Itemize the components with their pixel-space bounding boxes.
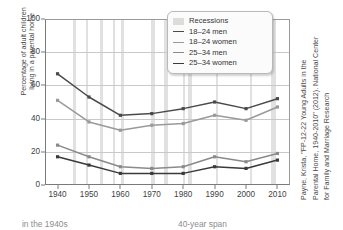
y-tick-label: 60: [31, 81, 40, 89]
x-tick-label: 2010: [268, 191, 286, 199]
legend-item[interactable]: 18–24 men: [173, 27, 267, 38]
legend-swatch-box-icon: [173, 18, 184, 25]
legend-item[interactable]: 25–34 women: [173, 58, 267, 69]
x-tick-mark: [151, 185, 152, 189]
data-point-marker: [213, 100, 216, 103]
data-point-marker: [150, 112, 153, 115]
legend-item-label: 18–24 men: [189, 28, 227, 36]
x-tick-label: 1990: [206, 191, 224, 199]
legend-swatch-line-icon: [173, 42, 184, 43]
data-point-marker: [213, 165, 216, 168]
data-point-marker: [213, 155, 216, 158]
data-point-marker: [276, 97, 279, 100]
data-point-marker: [244, 167, 247, 170]
data-point-marker: [56, 72, 59, 75]
data-point-marker: [87, 95, 90, 98]
data-point-marker: [276, 105, 279, 108]
caption-fragment-left: in the 1940s: [22, 219, 68, 230]
data-point-marker: [119, 165, 122, 168]
series-line: [58, 100, 278, 130]
data-point-marker: [182, 107, 185, 110]
source-credit-line-1: Payne, Krista, "FP-12-22 Young Adults in…: [299, 0, 311, 200]
legend-item[interactable]: 25–34 men: [173, 48, 267, 59]
x-tick-mark: [183, 185, 184, 189]
y-tick-mark: [41, 52, 45, 53]
data-point-marker: [119, 129, 122, 132]
legend-item-label: Recessions: [189, 17, 228, 25]
legend-item[interactable]: 18–24 women: [173, 37, 267, 48]
data-point-marker: [150, 167, 153, 170]
y-tick-label: 20: [31, 148, 40, 156]
x-tick-label: 1960: [111, 191, 129, 199]
source-credit-line-2: Parental Home, 1940-2010" (2012). Nation…: [311, 0, 323, 200]
data-point-marker: [244, 160, 247, 163]
data-point-marker: [150, 172, 153, 175]
x-tick-mark: [120, 185, 121, 189]
legend-item[interactable]: Recessions: [173, 16, 267, 27]
legend-swatch-line-icon: [173, 63, 184, 64]
y-tick-mark: [41, 85, 45, 86]
y-tick-mark: [41, 185, 45, 186]
legend-swatch-line-icon: [173, 52, 184, 53]
x-tick-mark: [88, 185, 89, 189]
data-point-marker: [56, 144, 59, 147]
x-tick-mark: [277, 185, 278, 189]
data-point-marker: [276, 152, 279, 155]
data-point-marker: [244, 119, 247, 122]
data-point-marker: [244, 107, 247, 110]
x-tick-mark: [214, 185, 215, 189]
data-point-marker: [87, 120, 90, 123]
data-point-marker: [56, 99, 59, 102]
x-tick-label: 1970: [143, 191, 161, 199]
legend-item-label: 25–34 men: [189, 49, 227, 57]
x-tick-label: 1950: [80, 191, 98, 199]
data-point-marker: [87, 155, 90, 158]
data-point-marker: [119, 114, 122, 117]
y-tick-mark: [41, 19, 45, 20]
source-credit-line-3: for Family and Marriage Research: [322, 0, 334, 200]
data-point-marker: [150, 124, 153, 127]
data-point-marker: [213, 114, 216, 117]
x-tick-mark: [57, 185, 58, 189]
data-point-marker: [182, 172, 185, 175]
y-tick-label: 40: [31, 115, 40, 123]
data-point-marker: [182, 122, 185, 125]
data-point-marker: [182, 165, 185, 168]
y-tick-mark: [41, 151, 45, 152]
legend-item-label: 25–34 women: [189, 59, 237, 67]
x-tick-mark: [246, 185, 247, 189]
legend-item-label: 18–24 women: [189, 38, 237, 46]
y-tick-label: 0: [35, 181, 40, 189]
x-tick-label: 1980: [174, 191, 192, 199]
data-point-marker: [87, 163, 90, 166]
data-point-marker: [56, 155, 59, 158]
y-tick-label: 80: [31, 48, 40, 56]
source-credit: Payne, Krista, "FP-12-22 Young Adults in…: [299, 0, 343, 200]
x-tick-label: 2000: [237, 191, 255, 199]
figure: Percentage of adult children living in a…: [0, 0, 343, 230]
x-tick-label: 1940: [48, 191, 66, 199]
legend-swatch-line-icon: [173, 31, 184, 32]
caption-fragment-right: 40-year span: [178, 219, 227, 230]
data-point-marker: [119, 172, 122, 175]
y-tick-label: 100: [26, 15, 40, 23]
data-point-marker: [276, 159, 279, 162]
chart-legend: Recessions18–24 men18–24 women25–34 men2…: [167, 11, 273, 74]
y-tick-mark: [41, 118, 45, 119]
